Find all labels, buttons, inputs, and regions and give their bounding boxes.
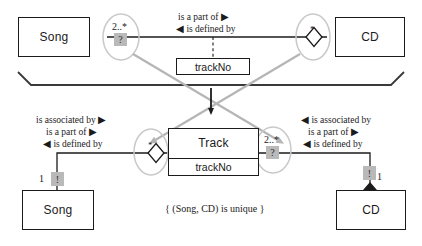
role-label-bottom-right-3: ◀ is defined by [303, 139, 362, 150]
association-class-trackno-top[interactable]: trackNo [176, 58, 250, 75]
class-box-cd-bottom[interactable]: CD [336, 190, 406, 230]
multiplicity-bottom-right-many: 2..* [264, 134, 279, 145]
chip-bottom-left-exclaim: ! [51, 172, 64, 186]
class-name-song-top: Song [19, 18, 89, 56]
multiplicity-top-left: 2..* [112, 21, 127, 32]
class-name-cd-top: CD [336, 18, 404, 56]
class-box-song-bottom[interactable]: Song [22, 190, 94, 230]
role-label-top-forward: is a part of ▶ [178, 12, 229, 23]
multiplicity-bottom-right-one: 1 [377, 171, 382, 182]
uml-diagram-canvas: Song CD trackNo 2..* ? * is a part of ▶ … [0, 0, 422, 246]
class-name-song-bottom: Song [23, 191, 93, 229]
chip-bottom-right-exclaim: ! [363, 166, 376, 180]
class-box-song-top[interactable]: Song [18, 17, 90, 57]
association-class-label-top: trackNo [195, 61, 231, 73]
role-label-bottom-left-1: is associated by ▶ [36, 115, 106, 126]
multiplicity-top-right: * [310, 24, 314, 34]
constraint-note: { (Song, CD) is unique } [165, 203, 265, 214]
role-label-bottom-left-2: is a part of ▶ [46, 127, 97, 138]
class-name-cd-bottom: CD [337, 191, 405, 229]
role-label-top-backward: ◀ is defined by [176, 24, 235, 35]
chip-bottom-right-question: ? [266, 146, 279, 159]
class-name-track: Track [169, 129, 258, 158]
multiplicity-bottom-left-star: * [148, 140, 152, 150]
multiplicity-bottom-left-one: 1 [39, 173, 44, 184]
role-label-bottom-right-1: ◀ is associated by [301, 115, 371, 126]
chip-top-left-question: ? [114, 33, 127, 46]
role-label-bottom-left-3: ◀ is defined by [43, 139, 102, 150]
bottom-left-association-line [57, 153, 168, 190]
role-label-bottom-right-2: is a part of ▶ [308, 127, 359, 138]
class-box-track[interactable]: Track trackNo [168, 128, 259, 176]
class-box-cd-top[interactable]: CD [335, 17, 405, 57]
class-attribute-track-trackno: trackNo [169, 158, 258, 176]
